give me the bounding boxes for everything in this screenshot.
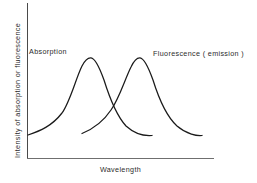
x-axis-label: Wavelength <box>0 166 241 173</box>
fluorescence-label: Fluorescence ( emission ) <box>153 50 244 57</box>
figure-container: Absorption Fluorescence ( emission ) Wav… <box>0 0 257 183</box>
y-axis-label: Intensity of absorption or fluorescence <box>14 3 21 158</box>
absorption-label: Absorption <box>29 48 67 55</box>
absorption-curve <box>28 58 152 136</box>
plot-area <box>0 0 257 183</box>
